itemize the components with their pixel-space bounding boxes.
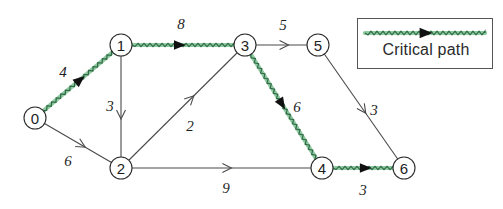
node-1[interactable]: 1 xyxy=(110,34,132,56)
edge-5-to-6-line xyxy=(324,54,397,159)
edge-3-to-5-weight-label: 5 xyxy=(279,17,287,33)
critical-path-graph-figure: 0123456 4638296533 Critical path xyxy=(0,0,503,209)
node-6[interactable]: 6 xyxy=(393,157,415,179)
edge-1-to-3-arrowhead xyxy=(174,40,186,50)
edge-4-to-6-arrowhead xyxy=(360,163,372,173)
node-6-label: 6 xyxy=(400,160,408,177)
node-3-label: 3 xyxy=(241,37,249,54)
node-0[interactable]: 0 xyxy=(24,107,46,129)
node-4-label: 4 xyxy=(318,160,326,177)
node-2-label: 2 xyxy=(117,160,125,177)
edge-2-to-3-line xyxy=(129,53,237,161)
legend-swatch-arrowhead xyxy=(420,28,433,39)
edge-0-to-2-line xyxy=(45,124,112,163)
node-1-label: 1 xyxy=(117,37,125,54)
edge-0-to-1-weight-label: 4 xyxy=(59,64,67,80)
node-5-label: 5 xyxy=(314,37,322,54)
edges-layer xyxy=(43,43,397,169)
legend-label: Critical path xyxy=(358,41,494,59)
node-5[interactable]: 5 xyxy=(307,34,329,56)
edge-4-to-6-weight-label: 3 xyxy=(358,182,367,198)
edge-2-to-3-weight-label: 2 xyxy=(186,118,194,134)
node-2[interactable]: 2 xyxy=(110,157,132,179)
node-4[interactable]: 4 xyxy=(311,157,333,179)
edge-1-to-3-weight-label: 8 xyxy=(177,16,185,32)
node-0-label: 0 xyxy=(31,110,39,127)
edge-0-to-2-weight-label: 6 xyxy=(64,153,72,169)
edge-5-to-6-weight-label: 3 xyxy=(369,102,378,118)
edge-3-to-4-weight-label: 6 xyxy=(293,99,301,115)
node-3[interactable]: 3 xyxy=(234,34,256,56)
edge-2-to-4-weight-label: 9 xyxy=(222,180,230,196)
legend-box: Critical path xyxy=(357,18,493,69)
edge-1-to-2-weight-label: 3 xyxy=(105,98,114,114)
arrowheads-layer xyxy=(72,40,371,173)
critical-path-swatch-icon xyxy=(363,26,487,40)
